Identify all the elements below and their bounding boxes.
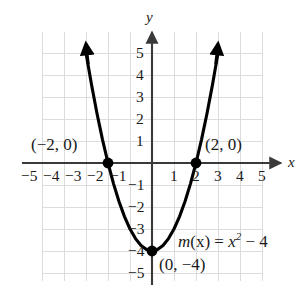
y-tick-neg2: −2 [128, 199, 145, 215]
equation-tail: − 4 [246, 232, 268, 251]
x-tick-3: 3 [214, 168, 222, 184]
label-vertex: (0, −4) [159, 256, 205, 273]
y-tick-neg3: −3 [128, 221, 145, 237]
y-tick-neg1: −1 [128, 177, 145, 193]
equation-label: m(x) = x2 − 4 [178, 231, 268, 250]
y-axis-label: y [146, 10, 153, 25]
label-root-right: (2, 0) [205, 136, 242, 153]
x-tick-neg1: −1 [110, 168, 127, 184]
equation-base: x [228, 232, 236, 251]
y-tick-neg4: −4 [128, 243, 145, 259]
x-tick-4: 4 [236, 168, 244, 184]
x-axis-label: x [288, 155, 295, 170]
x-tick-neg2: −2 [87, 168, 104, 184]
y-tick-neg5: −5 [128, 265, 145, 281]
x-tick-2: 2 [192, 168, 200, 184]
y-tick-4: 4 [136, 67, 144, 83]
equation-function-name: m [178, 232, 190, 251]
equation-argument: (x) [190, 232, 210, 251]
graph-figure: y x −5 −4 −3 −2 −1 1 2 3 4 5 5 4 3 2 1 −… [0, 0, 306, 293]
x-tick-5: 5 [258, 168, 266, 184]
x-tick-neg5: −5 [21, 168, 38, 184]
point-vertex [147, 246, 158, 257]
equation-equals-sign: = [214, 232, 224, 251]
y-tick-3: 3 [136, 89, 144, 105]
x-tick-1: 1 [170, 168, 178, 184]
label-root-left: (−2, 0) [31, 136, 77, 153]
y-tick-2: 2 [136, 111, 144, 127]
y-tick-1: 1 [136, 133, 144, 149]
x-tick-neg3: −3 [65, 168, 82, 184]
y-tick-5: 5 [136, 45, 144, 61]
x-tick-neg4: −4 [43, 168, 60, 184]
